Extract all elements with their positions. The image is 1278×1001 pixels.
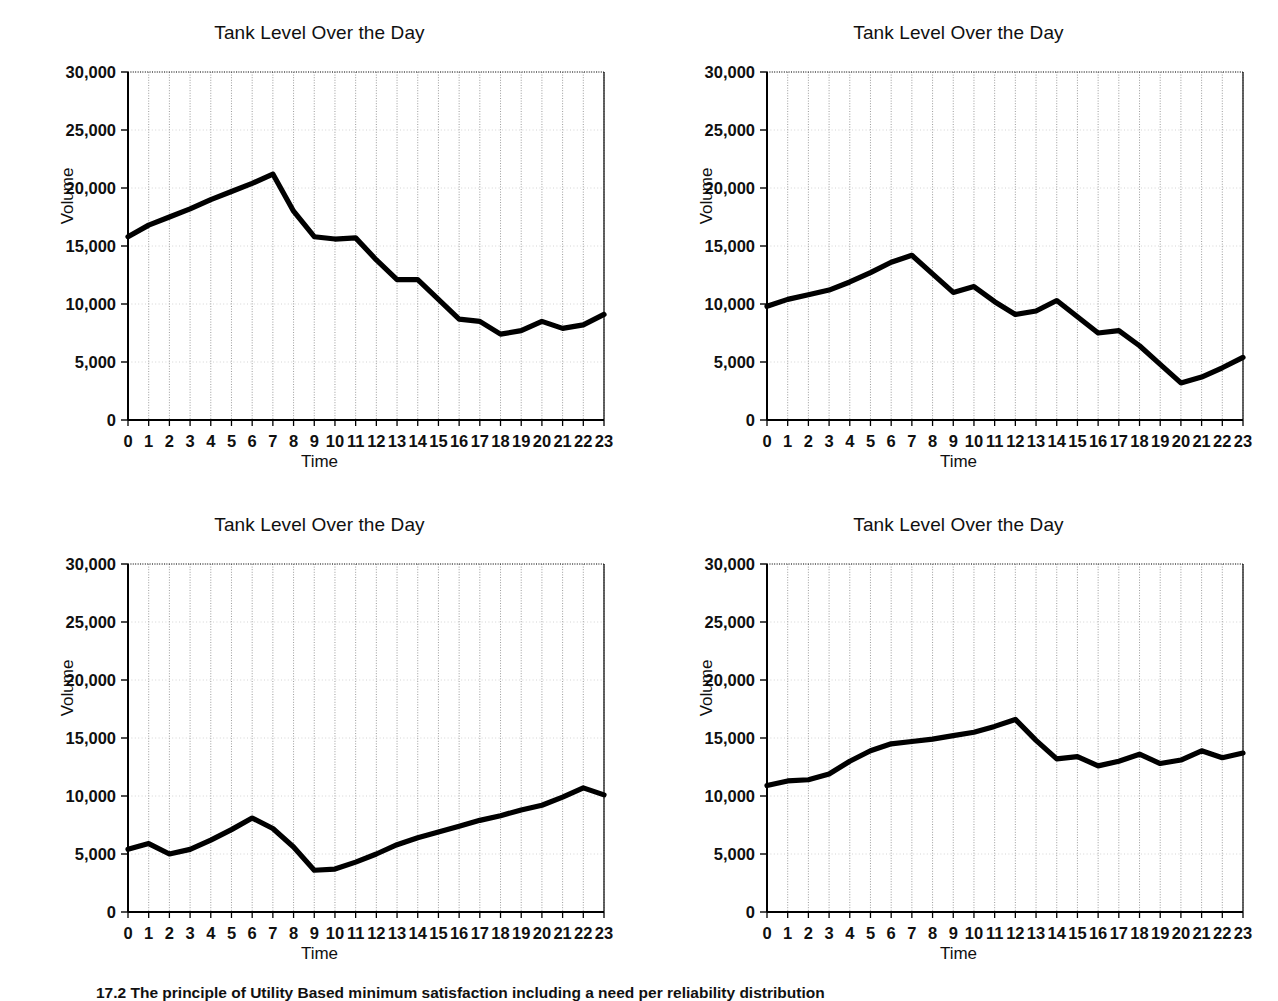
svg-text:8: 8 bbox=[928, 924, 937, 942]
svg-text:19: 19 bbox=[512, 924, 530, 942]
svg-text:5: 5 bbox=[866, 432, 875, 450]
svg-text:13: 13 bbox=[388, 924, 406, 942]
svg-text:15,000: 15,000 bbox=[66, 729, 116, 747]
svg-text:23: 23 bbox=[1234, 924, 1252, 942]
chart-title: Tank Level Over the Day bbox=[639, 514, 1278, 536]
plot-area-top-left: 05,00010,00015,00020,00025,00030,0000123… bbox=[46, 50, 616, 470]
svg-text:18: 18 bbox=[491, 432, 509, 450]
line-chart-svg: 05,00010,00015,00020,00025,00030,0000123… bbox=[46, 50, 616, 470]
svg-text:16: 16 bbox=[1089, 432, 1107, 450]
svg-text:20,000: 20,000 bbox=[66, 179, 116, 197]
svg-text:10: 10 bbox=[965, 432, 983, 450]
svg-text:0: 0 bbox=[762, 924, 771, 942]
svg-text:3: 3 bbox=[824, 432, 833, 450]
svg-text:13: 13 bbox=[1027, 432, 1045, 450]
svg-text:20: 20 bbox=[533, 432, 551, 450]
svg-text:15,000: 15,000 bbox=[705, 237, 755, 255]
svg-text:20,000: 20,000 bbox=[705, 671, 755, 689]
svg-text:16: 16 bbox=[1089, 924, 1107, 942]
svg-text:1: 1 bbox=[144, 432, 153, 450]
svg-text:4: 4 bbox=[845, 924, 855, 942]
svg-text:7: 7 bbox=[268, 924, 277, 942]
svg-text:25,000: 25,000 bbox=[66, 613, 116, 631]
svg-text:9: 9 bbox=[949, 924, 958, 942]
svg-text:20: 20 bbox=[1172, 432, 1190, 450]
svg-text:10: 10 bbox=[326, 924, 344, 942]
svg-text:10,000: 10,000 bbox=[705, 787, 755, 805]
svg-text:13: 13 bbox=[1027, 924, 1045, 942]
svg-text:1: 1 bbox=[783, 924, 792, 942]
svg-text:11: 11 bbox=[347, 924, 364, 942]
svg-text:19: 19 bbox=[1151, 924, 1169, 942]
svg-text:2: 2 bbox=[165, 432, 174, 450]
svg-text:15: 15 bbox=[1068, 432, 1086, 450]
chart-title: Tank Level Over the Day bbox=[0, 514, 639, 536]
svg-text:5,000: 5,000 bbox=[75, 845, 116, 863]
line-chart-svg: 05,00010,00015,00020,00025,00030,0000123… bbox=[46, 542, 616, 962]
svg-text:22: 22 bbox=[574, 924, 592, 942]
svg-text:3: 3 bbox=[185, 432, 194, 450]
svg-text:3: 3 bbox=[185, 924, 194, 942]
svg-text:22: 22 bbox=[1213, 924, 1231, 942]
chart-panel-bottom-right: Tank Level Over the Day Volume 05,00010,… bbox=[639, 500, 1278, 960]
svg-text:2: 2 bbox=[804, 432, 813, 450]
svg-text:10: 10 bbox=[965, 924, 983, 942]
svg-text:0: 0 bbox=[746, 411, 755, 429]
svg-text:0: 0 bbox=[746, 903, 755, 921]
svg-text:18: 18 bbox=[1130, 432, 1148, 450]
svg-text:16: 16 bbox=[450, 924, 468, 942]
x-axis-label: Time bbox=[0, 452, 639, 472]
chart-panel-bottom-left: Tank Level Over the Day Volume 05,00010,… bbox=[0, 500, 639, 960]
svg-text:14: 14 bbox=[1048, 432, 1067, 450]
plot-area-bottom-left: 05,00010,00015,00020,00025,00030,0000123… bbox=[46, 542, 616, 962]
svg-text:6: 6 bbox=[887, 432, 896, 450]
x-axis-label: Time bbox=[0, 944, 639, 964]
svg-text:5,000: 5,000 bbox=[75, 353, 116, 371]
svg-text:5: 5 bbox=[866, 924, 875, 942]
svg-text:22: 22 bbox=[1213, 432, 1231, 450]
svg-text:15,000: 15,000 bbox=[66, 237, 116, 255]
svg-text:12: 12 bbox=[1006, 924, 1024, 942]
svg-text:17: 17 bbox=[471, 432, 489, 450]
line-chart-svg: 05,00010,00015,00020,00025,00030,0000123… bbox=[685, 542, 1255, 962]
figure-caption: 17.2 The principle of Utility Based mini… bbox=[0, 983, 1278, 1001]
svg-text:11: 11 bbox=[986, 924, 1003, 942]
svg-text:8: 8 bbox=[289, 924, 298, 942]
svg-text:30,000: 30,000 bbox=[66, 555, 116, 573]
svg-text:23: 23 bbox=[595, 432, 613, 450]
svg-text:0: 0 bbox=[107, 903, 116, 921]
svg-text:0: 0 bbox=[123, 924, 132, 942]
chart-panel-top-left: Tank Level Over the Day Volume 05,00010,… bbox=[0, 0, 639, 500]
svg-text:5,000: 5,000 bbox=[714, 845, 755, 863]
svg-text:6: 6 bbox=[248, 924, 257, 942]
plot-area-bottom-right: 05,00010,00015,00020,00025,00030,0000123… bbox=[685, 542, 1255, 962]
svg-text:4: 4 bbox=[206, 432, 216, 450]
chart-panel-top-right: Tank Level Over the Day Volume 05,00010,… bbox=[639, 0, 1278, 500]
svg-text:11: 11 bbox=[986, 432, 1003, 450]
svg-text:22: 22 bbox=[574, 432, 592, 450]
svg-text:21: 21 bbox=[1192, 432, 1210, 450]
svg-text:10,000: 10,000 bbox=[66, 787, 116, 805]
svg-text:0: 0 bbox=[123, 432, 132, 450]
plot-area-top-right: 05,00010,00015,00020,00025,00030,0000123… bbox=[685, 50, 1255, 470]
svg-text:10,000: 10,000 bbox=[66, 295, 116, 313]
svg-text:10,000: 10,000 bbox=[705, 295, 755, 313]
svg-text:0: 0 bbox=[107, 411, 116, 429]
svg-text:14: 14 bbox=[1048, 924, 1067, 942]
svg-text:2: 2 bbox=[165, 924, 174, 942]
svg-text:11: 11 bbox=[347, 432, 364, 450]
svg-text:5: 5 bbox=[227, 924, 236, 942]
svg-text:3: 3 bbox=[824, 924, 833, 942]
svg-text:2: 2 bbox=[804, 924, 813, 942]
svg-text:12: 12 bbox=[367, 432, 385, 450]
svg-text:15: 15 bbox=[1068, 924, 1086, 942]
svg-text:1: 1 bbox=[783, 432, 792, 450]
svg-text:17: 17 bbox=[1110, 432, 1128, 450]
svg-text:15,000: 15,000 bbox=[705, 729, 755, 747]
svg-text:4: 4 bbox=[206, 924, 216, 942]
svg-text:13: 13 bbox=[388, 432, 406, 450]
svg-text:7: 7 bbox=[907, 432, 916, 450]
svg-text:5: 5 bbox=[227, 432, 236, 450]
svg-text:17: 17 bbox=[471, 924, 489, 942]
